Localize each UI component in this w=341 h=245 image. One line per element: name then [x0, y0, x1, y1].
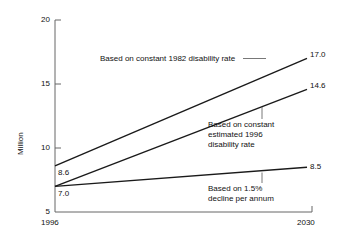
- value-label-mid-end: 14.6: [310, 81, 326, 91]
- x-tick-label-2030: 2030: [297, 218, 315, 228]
- chart-plot-area: [0, 0, 341, 245]
- annotation-constant-1996-line3: disability rate: [208, 140, 255, 150]
- series-line-decline-1p5: [55, 167, 307, 186]
- value-label-bottom-end: 8.5: [310, 162, 321, 172]
- y-axis-title: Million: [16, 132, 26, 155]
- annotation-constant-1996-line1: Based on constant: [208, 120, 274, 130]
- series-line-constant-1982: [55, 58, 307, 165]
- y-tick-label-20: 20: [34, 15, 50, 25]
- value-label-top-start: 8.6: [58, 168, 69, 178]
- annotation-constant-1996-line2: estimated 1996: [208, 130, 263, 140]
- x-tick-label-1996: 1996: [41, 218, 59, 228]
- value-label-mid-start: 7.0: [58, 189, 69, 199]
- series-line-constant-1996: [55, 89, 307, 186]
- annotation-decline-line1: Based on 1.5%: [208, 184, 262, 194]
- annotation-decline-line2: decline per annum: [208, 194, 274, 204]
- y-tick-label-5: 5: [34, 207, 50, 217]
- y-tick-label-15: 15: [34, 79, 50, 89]
- chart-container: Million 20 15 10 5 1996 2030 8.6 7.0 17.…: [0, 0, 341, 245]
- y-tick-label-10: 10: [34, 143, 50, 153]
- value-label-top-end: 17.0: [310, 50, 326, 60]
- annotation-constant-1982: Based on constant 1982 disability rate: [100, 54, 235, 64]
